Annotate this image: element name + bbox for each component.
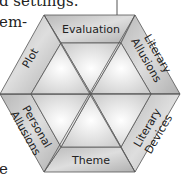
label-evaluation: Evaluation [62, 23, 120, 36]
hexagon-diagram: Evaluation Literary Allusions Literary D… [0, 0, 184, 177]
label-theme: Theme [71, 154, 110, 167]
